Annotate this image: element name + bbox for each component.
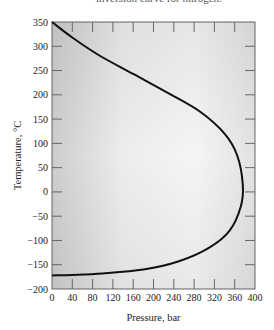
- y-tick-label: 0: [43, 186, 48, 197]
- x-tick-label: 360: [227, 292, 242, 303]
- x-tick-label: 320: [207, 292, 222, 303]
- chart-plot: 0408012016020024028032036040035030025020…: [0, 0, 274, 330]
- x-tick-label: 160: [126, 292, 141, 303]
- y-axis-label: Temperature, °C: [12, 101, 23, 211]
- x-tick-label: 200: [146, 292, 161, 303]
- x-tick-label: 280: [187, 292, 202, 303]
- y-tick-label: 250: [33, 65, 48, 76]
- x-tick-label: 0: [50, 292, 55, 303]
- x-tick-label: 40: [67, 292, 77, 303]
- y-tick-label: −150: [27, 259, 48, 270]
- x-tick-label: 400: [248, 292, 263, 303]
- x-tick-label: 80: [88, 292, 98, 303]
- y-tick-label: 50: [38, 162, 48, 173]
- y-tick-label: 300: [33, 41, 48, 52]
- y-tick-label: 200: [33, 89, 48, 100]
- x-tick-label: 120: [105, 292, 120, 303]
- y-tick-label: 100: [33, 138, 48, 149]
- x-axis-label: Pressure, bar: [52, 312, 255, 323]
- y-tick-label: 350: [33, 17, 48, 28]
- y-tick-label: −50: [32, 211, 48, 222]
- x-tick-label: 240: [166, 292, 181, 303]
- y-tick-label: 150: [33, 114, 48, 125]
- y-tick-label: −100: [27, 235, 48, 246]
- y-tick-label: −200: [27, 284, 48, 295]
